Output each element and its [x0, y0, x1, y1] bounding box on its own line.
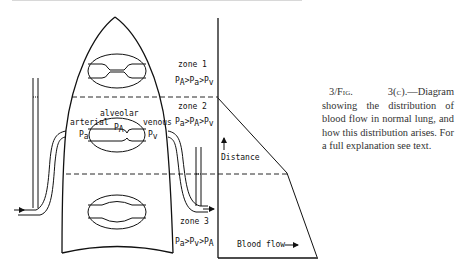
figure-caption: 3/Fig. 3(c).—Diagram showing the distrib… [322, 85, 454, 153]
venous-label: venous [143, 118, 172, 127]
zone1-label: zone 1 [178, 60, 207, 69]
zone2-relation: Pa>PA>Pv [175, 117, 214, 128]
vessel-labels: alveolar arterial venous PA Pa Pv [70, 109, 172, 141]
venous-tube [168, 131, 208, 212]
zone1-relation: PA>Pa>Pv [175, 76, 214, 87]
blood-flow-axis-label: Blood flow [237, 240, 285, 249]
caption-figure-number: 3/Fig. 3(c). [329, 86, 407, 97]
alveolar-label: alveolar [100, 109, 139, 118]
p-arterial-label: Pa [79, 130, 89, 141]
blood-flow-curve [218, 98, 317, 257]
zone3-label: zone 3 [180, 217, 209, 226]
flow-graph-axes [218, 18, 318, 258]
zone2-label: zone 2 [178, 102, 207, 111]
zone-labels: zone 1 PA>Pa>Pv zone 2 Pa>PA>Pv zone 3 P… [175, 60, 214, 248]
p-alveolar-label: PA [114, 123, 124, 134]
zone3-relation: Pa>Pv>PA [175, 237, 214, 248]
p-venous-label: Pv [148, 130, 158, 141]
alveolus-zone3 [88, 195, 146, 229]
alveolus-zone1 [88, 54, 146, 88]
distance-axis-label: Distance [221, 153, 260, 162]
arterial-label: arterial [70, 118, 109, 127]
arterial-tube [18, 78, 66, 215]
